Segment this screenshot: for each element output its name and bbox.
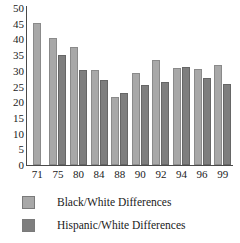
bar-black-white-84	[91, 70, 99, 165]
x-tick-label: 75	[52, 168, 63, 181]
bar-black-white-92	[152, 60, 160, 165]
x-tick-label: 96	[197, 168, 208, 181]
bar-group	[27, 8, 48, 165]
bar-black-white-94	[173, 68, 181, 165]
bar-hispanic-white-92	[161, 82, 169, 165]
bar-group	[68, 8, 89, 165]
y-tick-label: 10	[2, 128, 24, 139]
bar-hispanic-white-75	[58, 55, 66, 165]
x-tick-label: 84	[94, 168, 105, 181]
bar-chart: 50454035302520151050 7175808488909294969…	[0, 0, 240, 243]
bar-hispanic-white-90	[141, 85, 149, 165]
bar-black-white-71	[33, 23, 41, 165]
y-tick-label: 15	[2, 112, 24, 123]
bars-area	[27, 8, 233, 165]
bar-group	[192, 8, 213, 165]
x-axis-line	[26, 165, 233, 166]
plot-area: 50454035302520151050	[0, 0, 240, 172]
y-tick-label: 35	[2, 50, 24, 61]
y-tick-label: 0	[2, 160, 24, 171]
bar-black-white-75	[49, 38, 57, 165]
chart-legend: Black/White DifferencesHispanic/White Di…	[22, 191, 232, 237]
x-tick-label: 92	[155, 168, 166, 181]
bar-group	[89, 8, 110, 165]
bar-group	[212, 8, 233, 165]
bar-hispanic-white-96	[203, 78, 211, 165]
bar-black-white-99	[214, 65, 222, 165]
bar-group	[130, 8, 151, 165]
bar-hispanic-white-84	[100, 80, 108, 165]
bar-hispanic-white-88	[120, 93, 128, 165]
legend-label: Hispanic/White Differences	[57, 219, 185, 232]
y-axis: 50454035302520151050	[0, 0, 24, 172]
bar-group	[171, 8, 192, 165]
legend-swatch-hispanic-white	[22, 219, 35, 232]
y-tick-label: 20	[2, 97, 24, 108]
x-axis: 71758084889092949699	[27, 168, 233, 184]
bar-group	[48, 8, 69, 165]
bar-black-white-96	[194, 69, 202, 165]
x-tick-label: 90	[135, 168, 146, 181]
legend-item: Black/White Differences	[22, 191, 232, 214]
bar-black-white-88	[111, 97, 119, 165]
x-tick-label: 71	[32, 168, 43, 181]
bar-hispanic-white-94	[182, 67, 190, 165]
legend-label: Black/White Differences	[57, 196, 171, 209]
legend-swatch-black-white	[22, 196, 35, 209]
y-tick-label: 25	[2, 81, 24, 92]
y-tick-label: 5	[2, 144, 24, 155]
bar-group	[151, 8, 172, 165]
bar-group	[109, 8, 130, 165]
bar-hispanic-white-99	[223, 84, 231, 165]
y-tick-label: 45	[2, 18, 24, 29]
x-tick-label: 99	[217, 168, 228, 181]
bar-black-white-80	[70, 47, 78, 165]
x-tick-label: 88	[114, 168, 125, 181]
y-tick-label: 30	[2, 65, 24, 76]
bar-hispanic-white-80	[79, 70, 87, 165]
y-tick-label: 50	[2, 3, 24, 14]
y-tick-label: 40	[2, 34, 24, 45]
bar-black-white-90	[132, 73, 140, 165]
x-tick-label: 94	[176, 168, 187, 181]
x-tick-label: 80	[73, 168, 84, 181]
legend-item: Hispanic/White Differences	[22, 214, 232, 237]
